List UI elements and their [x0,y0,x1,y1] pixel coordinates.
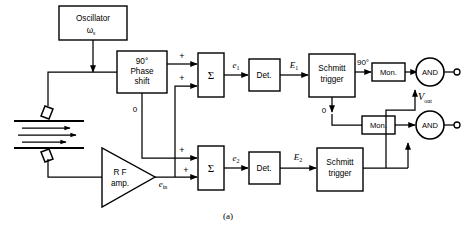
probe-upper-icon [41,106,53,119]
sign-sum-bot-in1: + [179,145,184,155]
rf-amp-label-line2: amp. [111,179,129,188]
rf-amp-triangle [102,148,155,207]
figure-caption: (a) [223,211,233,221]
phase-shift-label-line1: 90° [136,57,148,66]
sign-sum-top-in2: + [179,73,184,83]
wire-probe-lower-to-rfamp [48,159,102,177]
schmitt-bottom-label-line1: Schmitt [326,158,354,167]
schmitt-bottom-block: Schmitt trigger [317,148,363,191]
and-top-label: AND [422,68,439,77]
wire-feedback-to-sum-top [175,86,197,177]
label-schmitt-out-0: 0 [322,106,327,115]
and-bottom-label: AND [422,121,439,130]
oscillator-label-line1: Oscillator [76,14,110,23]
summer-top-block: Σ [198,53,224,97]
output-terminal-top[interactable] [454,69,460,75]
label-phase-zero-ref: 0 [133,105,138,114]
and-top-block: AND [416,58,444,86]
summer-top-label: Σ [208,69,214,81]
schmitt-bottom-label-line2: trigger [328,169,351,178]
sign-sum-top-in1: + [179,51,184,61]
mon-bottom-label: Mon. [370,121,387,130]
signal-label-E2: E2 [293,152,303,163]
wire-schmitt-top-to-mon-bottom [332,114,362,125]
summer-bottom-label: Σ [208,162,214,174]
wire-zero-ref-to-sum-bottom [142,93,197,158]
phase-shift-block: 90° Phase shift [117,51,167,93]
summer-bottom-block: Σ [198,146,224,190]
phase-shift-label-line2: Phase [130,67,154,76]
figure-block-diagram: Oscillator ωs 90° Phase shift + 0 + [0,0,461,232]
det-bottom-block: Det. [249,152,280,184]
rf-amp-block: R F amp. [102,148,155,207]
output-terminal-bottom[interactable] [454,122,460,128]
signal-label-e-in: ein [159,179,168,190]
mon-top-label: Mon. [380,68,397,77]
mon-bottom-block: Mon. [362,116,395,134]
det-bottom-label: Det. [256,164,271,173]
phase-shift-label-line3: shift [134,77,150,86]
schmitt-top-label-line2: trigger [320,75,343,84]
diagram-canvas: Oscillator ωs 90° Phase shift + 0 + [0,0,461,232]
signal-label-E1: E1 [289,60,299,71]
label-schmitt-out-90: 90° [357,58,369,67]
schmitt-top-block: Schmitt trigger [309,54,355,97]
probe-lower-icon [41,149,53,162]
signal-label-e2: e2 [233,153,240,164]
det-top-label: Det. [256,71,271,80]
mon-top-block: Mon. [372,63,405,81]
signal-label-v-out: Vout [418,91,432,104]
oscillator-block: Oscillator ωs [59,6,127,40]
waveguide-assembly [14,76,102,177]
signal-label-e1: e1 [233,60,240,71]
rf-amp-label-line1: R F [113,168,126,177]
and-bottom-block: AND [416,111,444,139]
sign-sum-bot-in2: + [183,165,188,175]
schmitt-top-label-line1: Schmitt [318,64,346,73]
det-top-block: Det. [249,59,280,91]
